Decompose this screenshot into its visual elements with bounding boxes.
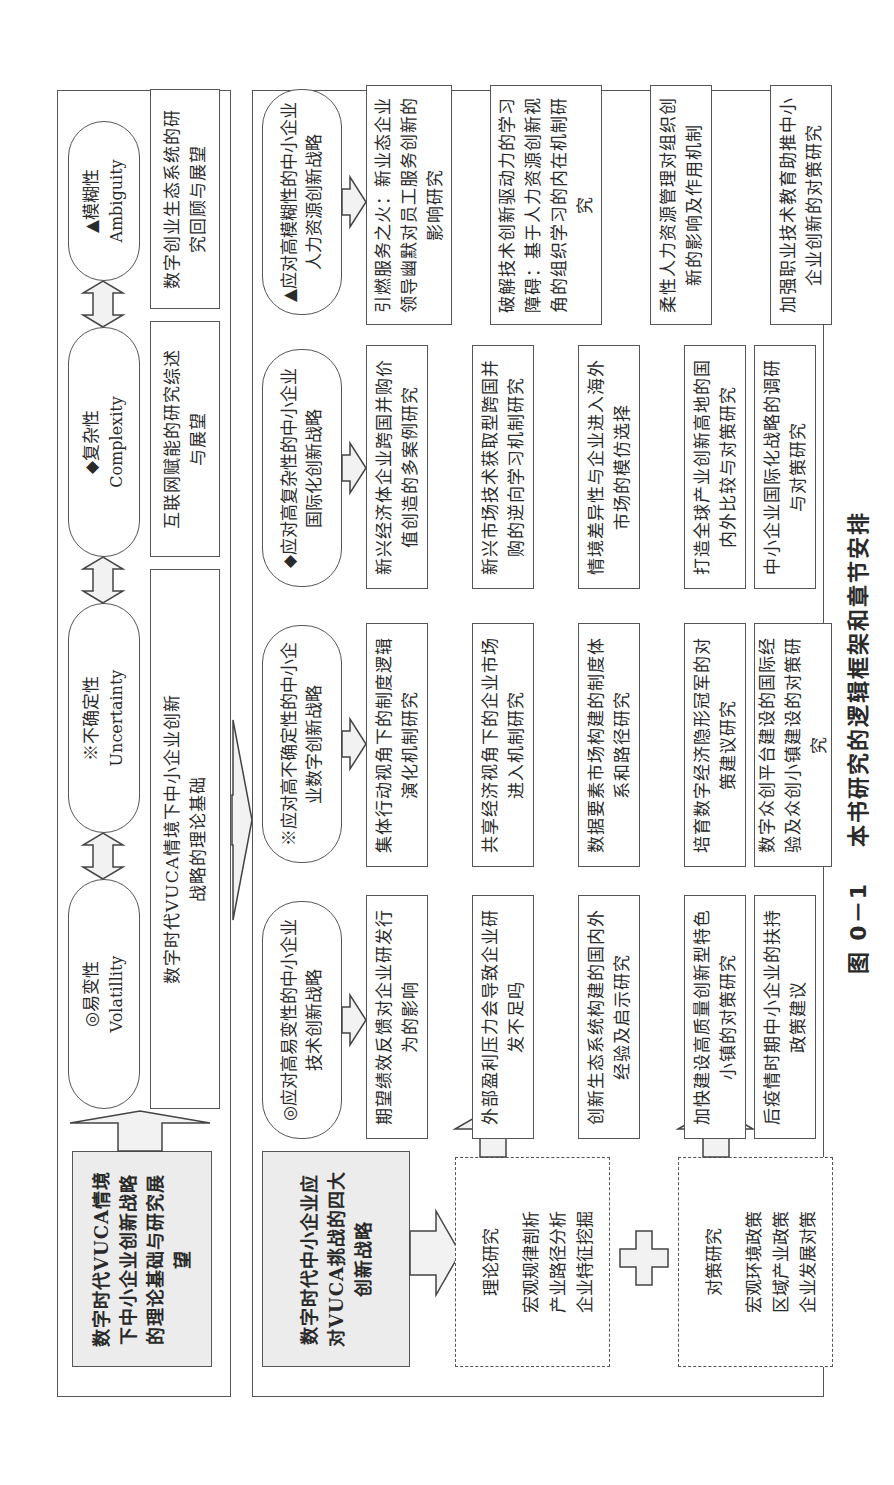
double-arrow-icon — [78, 281, 128, 327]
arrow-right-icon — [70, 1111, 210, 1151]
policy-research-title: 对策研究 — [701, 1158, 728, 1366]
strategy-topic: 打造全球产业创新高地的国内外比较与对策研究 — [684, 345, 746, 589]
strategy-topic: 破解技术创新驱动力的学习障碍：基于人力资源创新视角的组织学习的内在机制研究 — [490, 85, 602, 325]
strategy-summary-text: 数字时代中小企业应对VUCA挑战的四大创新战略 — [296, 1166, 377, 1352]
uncertainty-symbol-icon: ※ — [81, 744, 101, 761]
figure-caption: 图 0－1 本书研究的逻辑框架和章节安排 — [840, 0, 872, 1485]
strategy-topic: 后疫情时期中小企业的扶持政策建议 — [754, 895, 816, 1139]
strategy-topic: 数字众创平台建设的国际经验及众创小镇建设的对策研究 — [754, 623, 832, 867]
dimension-volatility: ◎易变性 Volatillity — [68, 879, 140, 1109]
double-arrow-icon — [78, 557, 128, 603]
review-theory-foundation: 数字时代VUCA情境下中小企业创新战略的理论基础 — [150, 569, 220, 1109]
arrow-down-icon — [410, 1211, 460, 1295]
theory-research-items: 宏观规律剖析 产业路径分析 企业特征挖掘 — [518, 1158, 599, 1366]
arrow-down-icon — [232, 720, 252, 920]
strategy-header-volatility: ◎应对高易变性的中小企业技术创新战略 — [262, 901, 342, 1139]
arrow-down-icon — [342, 719, 366, 769]
policy-research-box: 对策研究 宏观环境政策 区域产业政策 企业发展对策 — [678, 1157, 833, 1367]
strategy-topic: 加强职业技术教育助推中小企业创新的对策研究 — [770, 85, 832, 325]
arrow-down-icon — [342, 443, 366, 493]
strategy-topic: 中小企业国际化战略的调研与对策研究 — [754, 345, 816, 589]
strategy-header-complexity: ◆应对高复杂性的中小企业国际化创新战略 — [262, 349, 342, 587]
theory-summary-box: 数字时代VUCA情境下中小企业创新战略的理论基础与研究展望 — [72, 1151, 212, 1367]
strategy-topic: 期望绩效反馈对企业研发行为的影响 — [366, 895, 428, 1139]
review-internet-empowerment: 互联网赋能的研究综述与展望 — [150, 321, 220, 557]
strategy-topic: 新兴经济体企业跨国并购价值创造的多案例研究 — [366, 345, 428, 589]
arrow-down-icon — [342, 177, 366, 227]
strategy-topic: 共享经济视角下的企业市场进入机制研究 — [472, 623, 534, 867]
strategy-topic: 柔性人力资源管理对组织创新的影响及作用机制 — [650, 85, 712, 325]
strategy-topic: 新兴市场技术获取型跨国并购的逆向学习机制研究 — [472, 345, 534, 589]
review-digital-ecosystem: 数字创业生态系统的研究回顾与展望 — [150, 89, 220, 309]
strategy-topic: 加快建设高质量创新型特色小镇的对策研究 — [684, 895, 746, 1139]
dimension-complexity: ◆复杂性 Complexity — [68, 327, 140, 557]
strategy-header-uncertainty: ※应对高不确定性的中小企业数字创新战略 — [262, 625, 342, 863]
strategy-topic: 集体行动视角下的制度逻辑演化机制研究 — [366, 623, 428, 867]
caption-title: 本书研究的逻辑框架和章节安排 — [846, 511, 871, 847]
figure-canvas: 数字时代VUCA情境下中小企业创新战略的理论基础与研究展望 ◎易变性 Volat… — [0, 0, 894, 1485]
theory-research-title: 理论研究 — [478, 1158, 505, 1366]
double-arrow-icon — [78, 833, 128, 879]
caption-number: 图 0－1 — [846, 882, 871, 974]
strategy-topic: 引燃服务之火：新业态企业领导幽默对员工服务创新的影响研究 — [366, 85, 452, 325]
strategy-topic: 创新生态系统构建的国内外经验及启示研究 — [578, 895, 640, 1139]
strategy-summary-box: 数字时代中小企业应对VUCA挑战的四大创新战略 — [262, 1151, 410, 1367]
plus-icon — [620, 1231, 668, 1285]
ambiguity-symbol-icon: ▲ — [81, 220, 101, 233]
strategy-header-ambiguity: ▲应对高模糊性的中小企业人力资源创新战略 — [262, 89, 342, 315]
complexity-symbol-icon: ◆ — [81, 461, 101, 474]
strategy-topic: 外部盈利压力会导致企业研发不足吗 — [472, 895, 534, 1139]
strategy-topic: 培育数字经济隐形冠军的对策建议研究 — [684, 623, 746, 867]
dimension-uncertainty: ※不确定性 Uncertainty — [68, 603, 140, 833]
volatility-symbol-icon: ◎ — [81, 1012, 101, 1027]
policy-research-items: 宏观环境政策 区域产业政策 企业发展对策 — [741, 1158, 822, 1366]
theory-summary-text: 数字时代VUCA情境下中小企业创新战略的理论基础与研究展望 — [88, 1166, 196, 1352]
theory-research-box: 理论研究 宏观规律剖析 产业路径分析 企业特征挖掘 — [455, 1157, 610, 1367]
strategy-topic: 数据要素市场构建的制度体系和路径研究 — [578, 623, 640, 867]
strategy-topic: 情境差异性与企业进入海外市场的模仿选择 — [578, 345, 640, 589]
arrow-down-icon — [342, 995, 366, 1045]
dimension-ambiguity: ▲模糊性 Ambiguity — [68, 121, 140, 281]
